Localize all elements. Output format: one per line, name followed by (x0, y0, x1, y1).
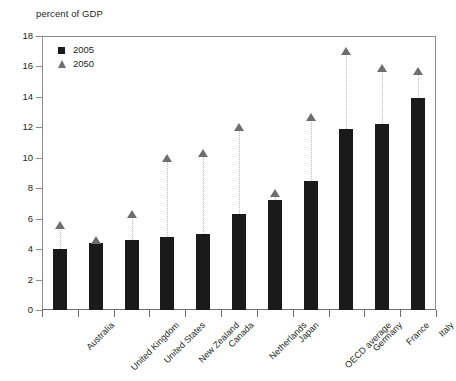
y-axis-tick-label: 14 (5, 92, 33, 102)
bar-2005 (89, 243, 103, 310)
x-axis-tick (114, 310, 115, 317)
bar-2005 (53, 249, 67, 310)
legend-item-2005: 2005 (58, 43, 94, 57)
legend-label-2050: 2050 (73, 59, 94, 69)
connector-line (311, 119, 312, 181)
legend-item-2050: 2050 (58, 57, 94, 71)
marker-2050 (198, 149, 208, 157)
bar-2005 (268, 200, 282, 310)
y-axis-tick-label: 4 (5, 244, 33, 254)
y-axis-tick (36, 127, 43, 128)
x-axis-tick (364, 310, 365, 317)
x-axis-tick (257, 310, 258, 317)
y-axis-tick-label: 16 (5, 61, 33, 71)
connector-line (60, 227, 61, 249)
y-axis-tick (36, 158, 43, 159)
bar-2005 (411, 98, 425, 310)
bar-2005 (375, 124, 389, 310)
bar-2005 (160, 237, 174, 310)
bar-2005 (304, 181, 318, 310)
x-axis-label: Italy (437, 320, 456, 339)
legend-label-2005: 2005 (73, 45, 94, 55)
y-axis-tick-label: 8 (5, 183, 33, 193)
chart-legend: 2005 2050 (58, 43, 94, 71)
x-axis-tick (42, 310, 43, 317)
connector-line (167, 160, 168, 237)
y-axis-tick (36, 188, 43, 189)
connector-line (203, 155, 204, 234)
connector-line (382, 70, 383, 124)
x-axis-tick (293, 310, 294, 317)
marker-2050 (306, 113, 316, 121)
x-axis-tick (329, 310, 330, 317)
y-axis-tick-label: 6 (5, 214, 33, 224)
y-axis-tick-label: 2 (5, 275, 33, 285)
connector-line (418, 73, 419, 98)
bar-2005 (232, 214, 246, 310)
bar-2005 (125, 240, 139, 310)
marker-2050 (127, 210, 137, 218)
x-axis-tick (400, 310, 401, 317)
y-axis-title: percent of GDP (36, 8, 103, 19)
y-axis-tick-label: 12 (5, 122, 33, 132)
x-axis-label: Australia (84, 320, 116, 352)
marker-2050 (341, 47, 351, 55)
x-axis-tick (221, 310, 222, 317)
y-axis-tick (36, 280, 43, 281)
connector-line (132, 216, 133, 240)
legend-triangle-marker-icon (58, 60, 66, 68)
y-axis-tick-label: 10 (5, 153, 33, 163)
marker-2050 (91, 236, 101, 244)
connector-line (239, 129, 240, 214)
y-axis-tick-label: 18 (5, 31, 33, 41)
legend-square-marker-icon (58, 47, 65, 54)
marker-2050 (377, 64, 387, 72)
marker-2050 (55, 221, 65, 229)
x-axis-tick (185, 310, 186, 317)
connector-line (346, 53, 347, 129)
bar-2005 (196, 234, 210, 310)
x-axis-label: France (404, 320, 431, 347)
x-axis-tick (436, 310, 437, 317)
y-axis-tick (36, 219, 43, 220)
x-axis-tick (149, 310, 150, 317)
y-axis-tick (36, 36, 43, 37)
y-axis-tick (36, 97, 43, 98)
bar-2005 (339, 129, 353, 310)
x-axis-tick (78, 310, 79, 317)
y-axis-tick (36, 249, 43, 250)
y-axis-tick (36, 66, 43, 67)
marker-2050 (270, 189, 280, 197)
marker-2050 (413, 67, 423, 75)
marker-2050 (234, 123, 244, 131)
y-axis-tick-label: 0 (5, 305, 33, 315)
marker-2050 (162, 154, 172, 162)
